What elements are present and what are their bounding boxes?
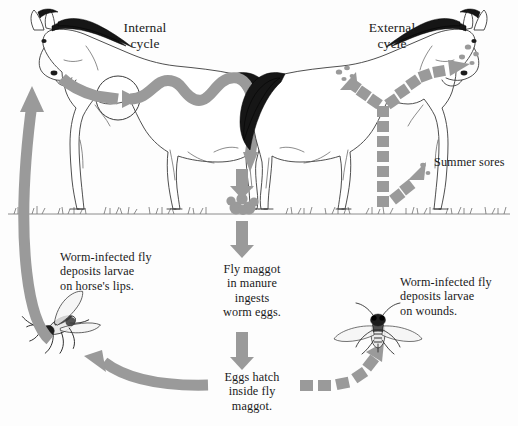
arrow-manure-to-maggot: [230, 221, 254, 258]
caption-worm-infected-fly-wounds: Worm-infected fly deposits larvae on wou…: [400, 275, 512, 318]
heading-external-cycle: External cycle: [352, 20, 432, 52]
caption-fly-maggot-manure: Fly maggot in manure ingests worm eggs.: [204, 262, 300, 320]
label-summer-sores: Summer sores: [434, 155, 518, 169]
arrow-left-fly-to-lips: [20, 86, 50, 340]
dashed-arrow-eggs-to-right-fly: [300, 342, 384, 391]
dashed-branch-leg: [389, 162, 426, 204]
heading-internal-cycle: Internal cycle: [105, 20, 185, 52]
caption-eggs-hatch: Eggs hatch inside fly maggot.: [203, 370, 301, 413]
arrow-maggot-to-eggs: [230, 332, 254, 370]
figure-canvas: .hl{fill:none;stroke:#3b3b3b;stroke-widt…: [0, 0, 518, 426]
arrow-eggs-to-left-fly: [84, 350, 208, 385]
dashed-trunk: [377, 106, 389, 207]
diagram-artwork: .hl{fill:none;stroke:#3b3b3b;stroke-widt…: [0, 0, 518, 426]
caption-worm-infected-fly-lips: Worm-infected fly deposits larvae on hor…: [60, 250, 172, 293]
